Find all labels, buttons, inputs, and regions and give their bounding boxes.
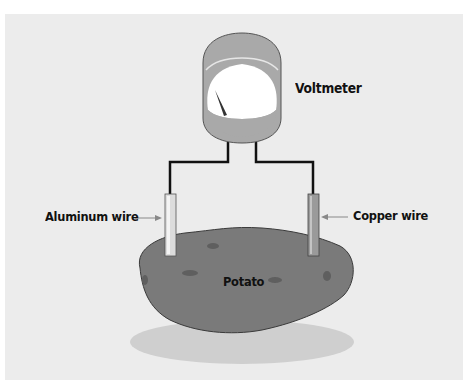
aluminum-probe <box>165 194 176 256</box>
potato-battery-illustration <box>0 0 472 386</box>
potato-eye <box>268 277 282 283</box>
voltmeter-label: Voltmeter <box>295 80 362 96</box>
voltmeter <box>203 33 281 143</box>
potato-eye <box>207 243 219 249</box>
copper-wire-label: Copper wire <box>353 208 428 223</box>
copper-arrowhead <box>321 214 328 220</box>
potato-eye <box>182 270 198 276</box>
potato-eye <box>323 271 331 281</box>
probe-highlight <box>167 196 170 254</box>
aluminum-arrowhead <box>155 215 162 221</box>
potato-eye <box>142 275 148 285</box>
wire-right <box>256 142 313 194</box>
copper-probe <box>308 194 319 256</box>
potato-label: Potato <box>223 274 264 289</box>
wire-left <box>170 142 228 194</box>
aluminum-wire-label: Aluminum wire <box>45 209 138 224</box>
probe-highlight <box>310 196 312 254</box>
